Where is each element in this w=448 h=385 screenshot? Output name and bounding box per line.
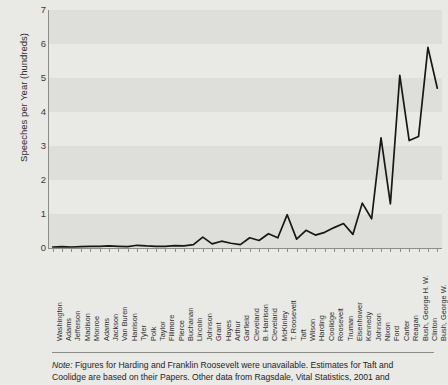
x-tick — [287, 248, 288, 252]
speeches-line-series — [48, 10, 442, 248]
x-label-hayes: Hayes — [225, 320, 232, 341]
x-tick — [428, 248, 429, 252]
x-tick — [100, 248, 101, 252]
x-tick — [62, 248, 63, 252]
y-tick-label-0: 0 — [20, 243, 46, 253]
x-tick — [165, 248, 166, 252]
x-tick — [147, 248, 148, 252]
x-tick — [409, 248, 410, 252]
x-tick — [259, 248, 260, 252]
x-tick — [81, 248, 82, 252]
y-tick-label-4: 4 — [20, 107, 46, 117]
x-label-clinton: Clinton — [431, 318, 438, 341]
x-label-reagan: Reagan — [412, 315, 419, 341]
y-tick-label-5: 5 — [20, 73, 46, 83]
x-tick — [419, 248, 420, 252]
x-tick — [109, 248, 110, 252]
chart-note: Note: Figures for Harding and Franklin R… — [52, 359, 442, 384]
x-tick — [203, 248, 204, 252]
x-tick — [362, 248, 363, 252]
x-label-roosevelt: Roosevelt — [337, 308, 344, 341]
x-tick — [390, 248, 391, 252]
y-tick-label-3: 3 — [20, 141, 46, 151]
x-label-eisenhower: Eisenhower — [356, 302, 363, 341]
x-label-kennedy: Kennedy — [365, 312, 372, 341]
x-label-taft: Taft — [300, 329, 307, 341]
x-label-mckinley: McKinley — [281, 311, 288, 341]
x-tick — [353, 248, 354, 252]
x-label-johnson: Johnson — [375, 313, 382, 341]
x-tick — [231, 248, 232, 252]
x-label-monroe: Monroe — [93, 316, 100, 341]
x-tick — [71, 248, 72, 252]
note-line1: Figures for Harding and Franklin Rooseve… — [75, 360, 393, 370]
x-label-bush-george-h-w: Bush, George H. W. — [422, 275, 429, 341]
note-line2: Coolidge are based on their Papers. Othe… — [52, 371, 442, 383]
x-label-cleveland: Cleveland — [271, 308, 278, 341]
x-label-cleveland: Cleveland — [253, 308, 260, 341]
x-label-adams: Adams — [103, 318, 110, 341]
x-label-madison: Madison — [84, 313, 91, 341]
x-label-jefferson: Jefferson — [74, 311, 81, 341]
x-tick — [240, 248, 241, 252]
x-tick — [175, 248, 176, 252]
x-label-buchanan: Buchanan — [187, 308, 194, 341]
x-label-harding: Harding — [318, 315, 325, 341]
y-tick-label-7: 7 — [20, 5, 46, 15]
y-tick-label-6: 6 — [20, 39, 46, 49]
x-tick — [344, 248, 345, 252]
x-label-adams: Adams — [65, 318, 72, 341]
x-label-lincoln: Lincoln — [196, 318, 203, 341]
x-tick — [212, 248, 213, 252]
y-axis-line — [48, 10, 49, 248]
x-label-nixon: Nixon — [384, 322, 391, 341]
x-label-wilson: Wilson — [309, 319, 316, 341]
y-tick-label-1: 1 — [20, 209, 46, 219]
line-path — [53, 47, 438, 247]
x-tick — [400, 248, 401, 252]
x-tick — [118, 248, 119, 252]
note-label: Note: — [52, 360, 73, 370]
x-tick — [268, 248, 269, 252]
x-label-taylor: Taylor — [159, 321, 166, 341]
x-axis-tickmarks — [48, 248, 442, 253]
x-tick — [184, 248, 185, 252]
x-label-truman: Truman — [347, 316, 354, 341]
x-tick — [306, 248, 307, 252]
x-label-washington: Washington — [56, 302, 63, 341]
x-tick — [325, 248, 326, 252]
x-tick — [278, 248, 279, 252]
x-label-b-harrison: B. Harrison — [262, 304, 269, 341]
x-label-garfield: Garfield — [243, 315, 250, 341]
note-divider — [52, 352, 434, 353]
x-tick — [381, 248, 382, 252]
x-tick — [193, 248, 194, 252]
x-axis-category-labels: WashingtonAdamsJeffersonMadisonMonroeAda… — [48, 255, 442, 343]
x-tick — [372, 248, 373, 252]
x-label-fillmore: Fillmore — [168, 315, 175, 341]
x-tick — [250, 248, 251, 252]
x-tick — [156, 248, 157, 252]
plot-area — [48, 10, 442, 248]
x-tick — [437, 248, 438, 252]
x-label-pierce: Pierce — [178, 320, 185, 341]
x-tick — [137, 248, 138, 252]
x-tick — [128, 248, 129, 252]
x-label-bush-george-w: Bush, George W. — [440, 285, 447, 341]
x-label-coolidge: Coolidge — [328, 312, 335, 341]
x-label-t-roosevelt: T. Roosevelt — [290, 300, 297, 341]
x-label-grant: Grant — [215, 323, 222, 341]
x-label-van-buren: Van Buren — [121, 307, 128, 341]
x-label-ford: Ford — [393, 326, 400, 341]
x-tick — [315, 248, 316, 252]
x-label-harrison: Harrison — [131, 313, 138, 341]
x-label-carter: Carter — [403, 320, 410, 341]
x-label-arthur: Arthur — [234, 321, 241, 341]
x-tick — [222, 248, 223, 252]
x-tick — [90, 248, 91, 252]
x-label-tyler: Tyler — [140, 325, 147, 341]
x-label-johnson: Johnson — [206, 313, 213, 341]
x-tick — [334, 248, 335, 252]
y-tick-label-2: 2 — [20, 175, 46, 185]
